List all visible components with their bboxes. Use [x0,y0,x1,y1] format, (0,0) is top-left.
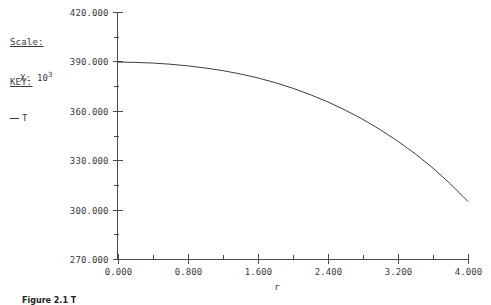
x-tick-label: 3.200 [385,267,413,277]
y-axis: 420.000390.000360.000330.000300.000270.0… [70,8,123,265]
y-axis-tick-labels: 420.000390.000360.000330.000300.000270.0… [70,8,109,265]
y-tick-label: 420.000 [70,8,109,18]
y-tick-label: 390.000 [70,57,109,67]
x-tick-label: 2.400 [315,267,343,277]
y-tick-label: 330.000 [70,156,109,166]
x-tick-label: 0.800 [175,267,203,277]
data-series-group [118,62,469,201]
x-axis: 0.0000.8001.6002.4003.2004.000 r [105,254,483,292]
x-axis-label: r [274,282,280,292]
x-tick-label: 1.600 [245,267,273,277]
y-tick-label: 300.000 [70,206,109,216]
figure-caption: Figure 2.1 T [22,294,76,305]
y-tick-label: 270.000 [70,255,109,265]
y-tick-label: 360.000 [70,107,109,117]
x-tick-label: 0.000 [105,267,133,277]
x-axis-tick-labels: 0.0000.8001.6002.4003.2004.000 [105,267,483,277]
series-line-T [118,62,469,201]
x-tick-label: 4.000 [455,267,483,277]
figure-root: Scale: X: 103 KEY: T 420.000390.000360.0… [0,0,491,305]
plot-canvas: 420.000390.000360.000330.000300.000270.0… [0,0,491,305]
